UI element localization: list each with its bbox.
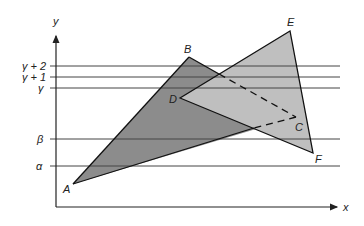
x-axis-label: x: [342, 201, 349, 213]
vertex-label-c: C: [295, 121, 303, 133]
vertex-label-f: F: [315, 153, 323, 165]
vertex-label-d: D: [169, 93, 177, 105]
scanline-label-alpha: α: [36, 160, 43, 172]
scanline-label-gamma: γ: [38, 82, 45, 94]
y-axis-label: y: [52, 15, 60, 27]
triangle-overlap-diagram: y x γ + 2 γ + 1 γ β α A B C D E F: [0, 0, 364, 226]
vertex-label-a: A: [62, 183, 70, 195]
vertex-label-e: E: [287, 16, 295, 28]
scanline-label-beta: β: [36, 133, 44, 145]
vertex-label-b: B: [184, 43, 191, 55]
